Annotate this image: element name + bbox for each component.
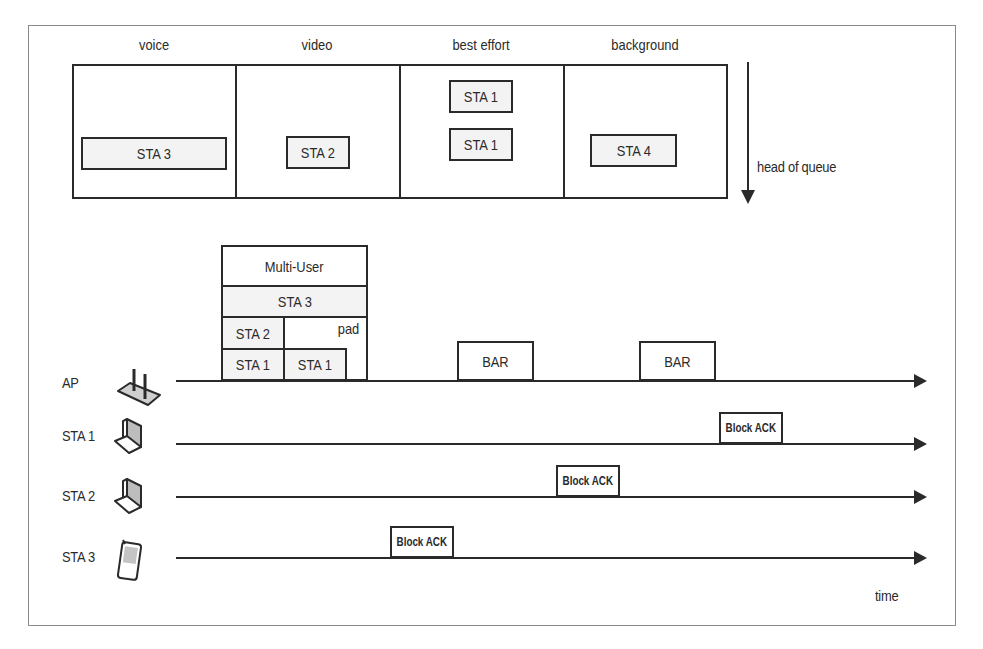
arrowhead-icon	[914, 374, 927, 388]
bar-frame-2: BAR	[639, 341, 716, 381]
queue-label-background: background	[574, 36, 715, 53]
row-label-sta1: STA 1	[62, 427, 95, 444]
mu-pad-label: pad	[338, 320, 360, 337]
timeline-ap	[176, 380, 916, 382]
queue-frame-background-sta4: STA 4	[590, 134, 677, 167]
arrowhead-icon	[914, 437, 927, 451]
queue-label-video: video	[246, 36, 387, 53]
laptop-icon	[113, 477, 158, 522]
mu-row-sta1-a: STA 1	[221, 348, 285, 381]
block-ack-sta2: Block ACK	[556, 465, 620, 497]
queue-frame-video-sta2: STA 2	[286, 136, 350, 169]
queue-divider	[563, 66, 565, 197]
block-ack-sta3: Block ACK	[390, 526, 454, 558]
timeline-sta3	[176, 557, 916, 559]
block-ack-sta1: Block ACK	[719, 412, 783, 444]
queue-label-voice: voice	[83, 36, 224, 53]
queue-label-best-effort: best effort	[410, 36, 551, 53]
arrowhead-icon	[914, 490, 927, 504]
timeline-sta1	[176, 443, 916, 445]
head-of-queue-arrow-shaft	[747, 62, 749, 192]
row-label-sta3: STA 3	[62, 548, 95, 565]
queue-frame-best-effort-sta1: STA 1	[449, 80, 513, 113]
queue-frame-voice-sta3: STA 3	[81, 137, 227, 170]
arrowhead-icon	[914, 551, 927, 565]
mu-row-sta1-b: STA 1	[283, 348, 347, 381]
bar-frame-1: BAR	[457, 341, 534, 381]
queue-divider	[235, 66, 237, 197]
row-label-ap: AP	[62, 374, 79, 391]
time-axis-label: time	[875, 587, 898, 604]
timeline-sta2	[176, 496, 916, 498]
mu-header: Multi-User	[221, 245, 368, 287]
queue-divider	[399, 66, 401, 197]
access-point-icon	[116, 365, 166, 410]
head-of-queue-label: head of queue	[757, 158, 836, 175]
queue-frame-best-effort-sta1: STA 1	[449, 128, 513, 161]
mu-row-sta3: STA 3	[221, 285, 368, 318]
mu-row-sta2: STA 2	[221, 316, 285, 350]
row-label-sta2: STA 2	[62, 487, 95, 504]
phone-icon	[117, 538, 147, 584]
head-of-queue-arrow-icon	[741, 190, 755, 204]
laptop-icon	[113, 417, 158, 462]
access-category-queues	[72, 64, 728, 199]
